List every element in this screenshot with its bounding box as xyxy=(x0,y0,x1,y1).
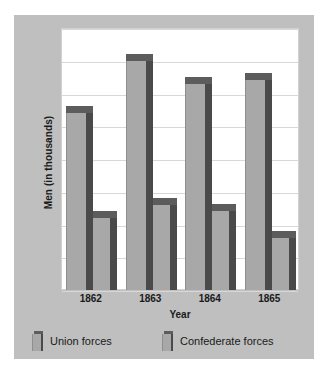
legend-label: Confederate forces xyxy=(180,335,274,347)
confederate-swatch xyxy=(162,331,173,351)
bar-face xyxy=(209,211,230,290)
bar-1863-union-forces[interactable] xyxy=(126,61,146,290)
x-tick-label-1862: 1862 xyxy=(63,293,119,304)
chart-card: Men (in thousands) 1862186318641865 Year… xyxy=(14,15,314,359)
bar-top xyxy=(209,204,236,211)
union-swatch xyxy=(32,331,43,351)
bar-top xyxy=(245,73,272,80)
legend-item-union-forces[interactable]: Union forces xyxy=(32,330,112,352)
x-axis-title: Year xyxy=(61,309,299,320)
gridline-0 xyxy=(62,291,298,292)
x-tick-label-1863: 1863 xyxy=(122,293,178,304)
y-axis-title: Men (in thousands) xyxy=(43,83,54,243)
bar-group-1864 xyxy=(180,28,240,290)
bar-top xyxy=(185,77,212,84)
bar-face xyxy=(150,205,171,290)
x-tick-label-1864: 1864 xyxy=(182,293,238,304)
bar-1865-union-forces[interactable] xyxy=(245,80,265,290)
bar-face xyxy=(245,80,266,290)
bar-1863-confederate-forces[interactable] xyxy=(150,205,170,290)
bar-face xyxy=(185,84,206,290)
bar-side xyxy=(170,205,177,290)
bar-group-1862 xyxy=(61,28,121,290)
x-axis-tick-labels: 1862186318641865 xyxy=(61,293,299,307)
bar-side xyxy=(289,238,296,290)
bar-1864-union-forces[interactable] xyxy=(185,84,205,290)
bar-1862-confederate-forces[interactable] xyxy=(90,218,110,290)
bar-group-1863 xyxy=(121,28,181,290)
bars-layer xyxy=(61,28,299,290)
bar-top xyxy=(269,231,296,238)
bar-1864-confederate-forces[interactable] xyxy=(209,211,229,290)
bar-face xyxy=(126,61,147,290)
bar-top xyxy=(66,106,93,113)
bar-side xyxy=(86,113,93,290)
bar-side xyxy=(229,211,236,290)
bar-group-1865 xyxy=(240,28,300,290)
bar-side xyxy=(110,218,117,290)
bar-face xyxy=(90,218,111,290)
bar-side xyxy=(265,80,272,290)
bar-face xyxy=(66,113,87,290)
x-tick-label-1865: 1865 xyxy=(241,293,297,304)
chart-legend: Union forcesConfederate forces xyxy=(32,330,304,354)
bar-top xyxy=(126,54,153,61)
swatch-face xyxy=(162,334,171,351)
bar-1865-confederate-forces[interactable] xyxy=(269,238,289,290)
bar-side xyxy=(146,61,153,290)
bar-side xyxy=(205,84,212,290)
swatch-face xyxy=(32,334,41,351)
legend-label: Union forces xyxy=(50,335,112,347)
bar-1862-union-forces[interactable] xyxy=(66,113,86,290)
bar-top xyxy=(90,211,117,218)
bar-face xyxy=(269,238,290,290)
bar-top xyxy=(150,198,177,205)
legend-item-confederate-forces[interactable]: Confederate forces xyxy=(162,330,274,352)
